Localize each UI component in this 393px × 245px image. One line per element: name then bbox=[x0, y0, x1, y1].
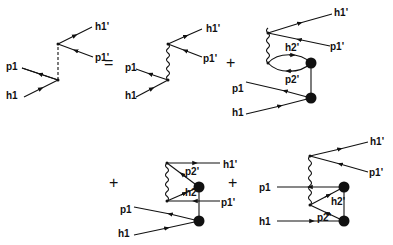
blob-vertex bbox=[306, 93, 317, 104]
label-p1: p1 bbox=[125, 63, 137, 73]
label-p1-prime: p1' bbox=[95, 53, 109, 63]
label-p1: p1 bbox=[232, 84, 244, 94]
diagram-lines bbox=[0, 0, 393, 245]
label-h1: h1 bbox=[125, 91, 137, 101]
diagram-term3 bbox=[134, 163, 220, 235]
label-p1: p1 bbox=[259, 183, 271, 193]
label-p1-prime: p1' bbox=[203, 54, 217, 64]
label-h1-prime: h1' bbox=[223, 160, 237, 170]
label-h1: h1 bbox=[259, 217, 271, 227]
plus-sign: + bbox=[226, 55, 235, 71]
label-p2-prime: p2' bbox=[285, 75, 299, 85]
label-p1-prime: p1' bbox=[221, 198, 235, 208]
label-p1: p1 bbox=[120, 205, 132, 215]
plus-sign: + bbox=[228, 175, 237, 191]
label-p1-prime: p1' bbox=[330, 42, 344, 52]
label-h2-prime: h2' bbox=[185, 188, 199, 198]
label-h2-prime: h2' bbox=[331, 197, 345, 207]
feynman-figure: = + + + p1 h1 h1' p1' p1 h1 h1' p1' p1 h… bbox=[0, 0, 393, 245]
diagram-lhs bbox=[22, 27, 93, 97]
label-p2-prime: p2' bbox=[185, 167, 199, 177]
diagram-term4 bbox=[277, 142, 368, 221]
diagram-term2 bbox=[246, 14, 332, 114]
label-p1-prime: p1' bbox=[369, 168, 383, 178]
label-h1-prime: h1' bbox=[206, 24, 220, 34]
label-h1: h1 bbox=[6, 91, 18, 101]
label-h2-prime: h2' bbox=[285, 43, 299, 53]
blob-vertex bbox=[306, 58, 317, 69]
label-h1: h1 bbox=[118, 229, 130, 239]
label-h1: h1 bbox=[232, 108, 244, 118]
plus-sign: + bbox=[109, 175, 118, 191]
label-p1: p1 bbox=[6, 62, 18, 72]
label-h1-prime: h1' bbox=[95, 22, 109, 32]
diagram-term1 bbox=[136, 29, 202, 97]
label-p2-prime: p2' bbox=[317, 213, 331, 223]
label-h1-prime: h1' bbox=[334, 8, 348, 18]
label-h1-prime: h1' bbox=[370, 137, 384, 147]
